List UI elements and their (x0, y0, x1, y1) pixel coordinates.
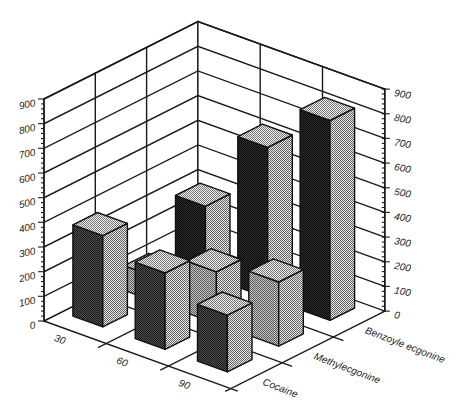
bar-front-face (198, 304, 228, 372)
bar-front-face (300, 110, 330, 321)
bar-side-face (103, 223, 128, 327)
bar-side-face (330, 108, 355, 320)
bar-methylecgonine-90 (249, 259, 303, 346)
bar-benzoyle-ecgonine-90 (300, 97, 355, 320)
bar-side-face (165, 261, 190, 350)
bar-cocaine-90 (198, 292, 253, 372)
bar-front-face (249, 271, 279, 346)
bar-cocaine-30 (73, 213, 128, 327)
bar-front-face (73, 225, 103, 327)
bar-cocaine-60 (135, 250, 190, 350)
chart-3d-bar: 0010010020020030030040040050050060060070… (0, 0, 475, 413)
bar-side-face (279, 270, 304, 347)
bar-front-face (135, 262, 165, 349)
